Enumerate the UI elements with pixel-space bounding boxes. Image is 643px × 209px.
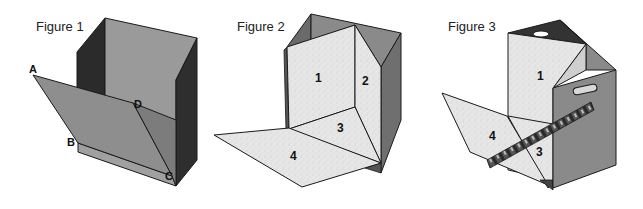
- panel-label-3: 3: [337, 121, 344, 135]
- panel-label-1: 1: [537, 69, 544, 83]
- figure-1-box: A B C D: [29, 18, 197, 186]
- figure-3-bottom-shadow: [540, 180, 553, 190]
- panel-label-1: 1: [315, 71, 322, 85]
- panel-label-2: 2: [362, 74, 369, 88]
- panel-label-4: 4: [290, 149, 297, 163]
- figures-drawing: A B C D 1 2 3 4: [0, 0, 643, 209]
- vertex-label-b: B: [67, 136, 75, 148]
- vertex-label-c: C: [165, 170, 173, 182]
- panel-label-4: 4: [489, 129, 496, 143]
- panel-label-3: 3: [536, 145, 543, 159]
- figure-2-box: 1 2 3 4: [214, 14, 401, 187]
- figure-1-left-side: [77, 18, 105, 100]
- figure-3-box: 1 3 4: [442, 20, 616, 190]
- vertex-label-d: D: [134, 98, 142, 110]
- vertex-label-a: A: [29, 63, 37, 75]
- figure-3-back-handle-icon: [533, 31, 549, 37]
- figure-stage: Figure 1 Figure 2 Figure 3: [0, 0, 643, 209]
